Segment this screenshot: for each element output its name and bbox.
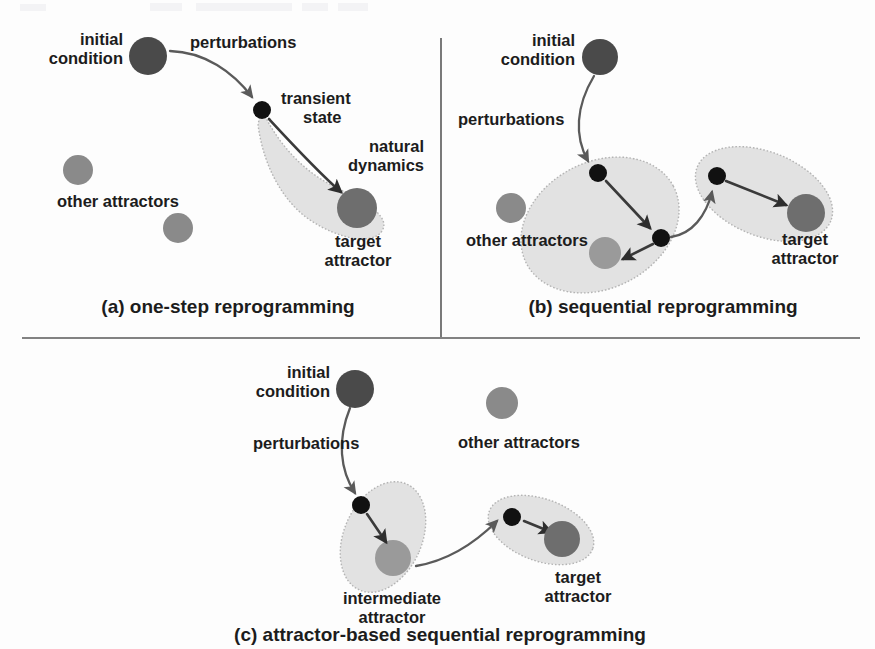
label-target-attractor-c-line2: attractor xyxy=(545,587,613,605)
label-initial-condition-b-line1: initial xyxy=(532,31,575,49)
label-target-attractor-b-line1: target xyxy=(782,230,828,248)
node-initial-condition-a xyxy=(129,37,167,75)
node-target-attractor-a xyxy=(337,188,377,228)
node-initial-condition-c xyxy=(336,370,374,408)
label-other-attractors-a: other attractors xyxy=(57,192,179,210)
label-other-attractors-b: other attractors xyxy=(466,231,588,249)
label-initial-condition-a-line1: initial xyxy=(80,30,123,48)
node-transient-state-a xyxy=(253,101,271,119)
node-transient-state-c2 xyxy=(503,508,521,526)
label-natural-dynamics-a-line2: dynamics xyxy=(348,156,424,174)
label-target-attractor-c-line1: target xyxy=(555,568,601,586)
node-intermediate-attractor-b xyxy=(589,237,621,269)
reprogramming-diagram: initial condition perturbations transien… xyxy=(0,0,875,649)
figure-root: initial condition perturbations transien… xyxy=(0,0,875,649)
caption-panel-b: (b) sequential reprogramming xyxy=(528,296,797,317)
label-initial-condition-c-line2: condition xyxy=(256,382,330,400)
label-natural-dynamics-a-line1: natural xyxy=(369,137,424,155)
label-transient-state-a-line1: transient xyxy=(281,89,351,107)
label-initial-condition-c-line1: initial xyxy=(287,363,330,381)
label-perturbations-a: perturbations xyxy=(190,33,296,51)
node-target-attractor-b xyxy=(787,194,825,232)
label-target-attractor-a-line1: target xyxy=(335,232,381,250)
caption-panel-c: (c) attractor-based sequential reprogram… xyxy=(234,624,646,645)
node-other-attractor-a1 xyxy=(63,155,93,185)
label-initial-condition-a-line2: condition xyxy=(49,49,123,67)
node-transient-state-b2 xyxy=(652,229,670,247)
label-other-attractors-c: other attractors xyxy=(458,433,580,451)
label-initial-condition-b-line2: condition xyxy=(501,50,575,68)
node-other-attractor-c xyxy=(486,387,518,419)
label-perturbations-b: perturbations xyxy=(458,110,564,128)
label-perturbations-c: perturbations xyxy=(253,434,359,452)
node-other-attractor-b xyxy=(496,193,526,223)
node-intermediate-attractor-c xyxy=(375,540,411,576)
node-target-attractor-c xyxy=(544,521,580,557)
figure-background xyxy=(0,0,875,649)
label-intermediate-attractor-c-line1: intermediate xyxy=(343,589,441,607)
node-other-attractor-a2 xyxy=(163,213,193,243)
label-target-attractor-b-line2: attractor xyxy=(772,249,840,267)
label-transient-state-a-line2: state xyxy=(303,108,342,126)
node-transient-state-c1 xyxy=(352,496,370,514)
node-initial-condition-b xyxy=(582,39,618,75)
label-target-attractor-a-line2: attractor xyxy=(325,251,393,269)
caption-panel-a: (a) one-step reprogramming xyxy=(101,296,354,317)
node-transient-state-b3 xyxy=(708,167,726,185)
node-transient-state-b1 xyxy=(589,164,607,182)
